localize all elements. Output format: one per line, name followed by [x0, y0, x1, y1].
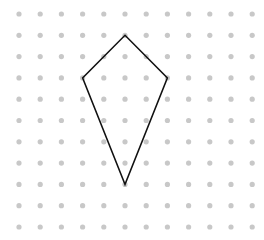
grid-dot — [80, 118, 85, 123]
grid-dot — [16, 118, 21, 123]
grid-dot — [38, 161, 43, 166]
grid-dot — [122, 139, 127, 144]
grid-dot — [207, 118, 212, 123]
grid-dot — [101, 224, 106, 229]
grid-dot — [16, 54, 21, 59]
grid-dot — [144, 97, 149, 102]
grid-dot — [122, 161, 127, 166]
grid-dot — [80, 224, 85, 229]
grid-dot — [165, 203, 170, 208]
grid-dot — [80, 182, 85, 187]
grid-dot — [16, 203, 21, 208]
grid-dot — [207, 224, 212, 229]
grid-dot — [38, 54, 43, 59]
grid-dot — [144, 224, 149, 229]
grid-dot — [101, 118, 106, 123]
grid-dot — [59, 224, 64, 229]
grid-dot — [250, 182, 255, 187]
grid-dot — [186, 33, 191, 38]
grid-dot — [250, 54, 255, 59]
grid-dot — [207, 97, 212, 102]
grid-dot — [250, 11, 255, 16]
grid-dot — [228, 182, 233, 187]
grid-dot — [80, 11, 85, 16]
grid-dot — [38, 33, 43, 38]
grid-dot — [101, 161, 106, 166]
grid-dot — [207, 139, 212, 144]
grid-dot — [101, 203, 106, 208]
grid-dot — [228, 33, 233, 38]
grid-dot — [122, 54, 127, 59]
grid-dot — [228, 161, 233, 166]
grid-dot — [80, 97, 85, 102]
grid-dot — [101, 182, 106, 187]
grid-dot — [186, 161, 191, 166]
grid-dot — [16, 97, 21, 102]
grid-dot — [207, 75, 212, 80]
grid-dot — [38, 11, 43, 16]
grid-dot — [59, 33, 64, 38]
grid-dot — [207, 161, 212, 166]
grid-dot — [101, 11, 106, 16]
grid-dot — [250, 75, 255, 80]
grid-dot — [250, 118, 255, 123]
grid-dot — [59, 75, 64, 80]
grid-dot — [250, 139, 255, 144]
grid-dot — [144, 118, 149, 123]
grid-dot — [165, 97, 170, 102]
grid-dot — [59, 182, 64, 187]
grid-dot — [144, 203, 149, 208]
grid-dot — [250, 224, 255, 229]
grid-dot — [144, 33, 149, 38]
grid-dot — [38, 203, 43, 208]
dot-grid-diagram — [0, 0, 264, 240]
grid-dot — [122, 75, 127, 80]
grid-dot — [250, 33, 255, 38]
grid-dot — [228, 97, 233, 102]
grid-dot — [186, 54, 191, 59]
grid-dot — [186, 11, 191, 16]
grid-dot — [80, 139, 85, 144]
grid-dot — [207, 203, 212, 208]
grid-dot — [80, 161, 85, 166]
grid-dot — [186, 118, 191, 123]
grid-dot — [165, 139, 170, 144]
grid-dot — [16, 224, 21, 229]
grid-dot — [122, 224, 127, 229]
grid-dot — [207, 182, 212, 187]
grid-dot — [228, 224, 233, 229]
grid-dot — [186, 75, 191, 80]
grid-dot — [165, 182, 170, 187]
grid-dot — [122, 97, 127, 102]
grid-dot — [186, 97, 191, 102]
grid-dot — [38, 139, 43, 144]
grid-dot — [16, 33, 21, 38]
grid-dot — [59, 11, 64, 16]
grid-dot — [165, 33, 170, 38]
grid-dot — [59, 97, 64, 102]
grid-dot — [144, 139, 149, 144]
grid-dot — [16, 161, 21, 166]
grid-dot — [186, 182, 191, 187]
grid-dot — [165, 118, 170, 123]
grid-dot — [38, 97, 43, 102]
grid-dot — [38, 75, 43, 80]
grid-dot — [228, 54, 233, 59]
grid-dot — [165, 54, 170, 59]
grid-dot — [122, 118, 127, 123]
grid-dot — [250, 97, 255, 102]
grid-dot — [122, 203, 127, 208]
grid-dot — [38, 182, 43, 187]
grid-dot — [59, 203, 64, 208]
grid-dot — [144, 11, 149, 16]
grid-dot — [38, 118, 43, 123]
grid-dot — [16, 182, 21, 187]
grid-dot — [144, 161, 149, 166]
grid-dot — [80, 203, 85, 208]
grid-dot — [186, 203, 191, 208]
grid-dot — [228, 75, 233, 80]
grid-dot — [59, 54, 64, 59]
grid-dot — [165, 161, 170, 166]
grid-dot — [80, 33, 85, 38]
grid-dot — [186, 139, 191, 144]
